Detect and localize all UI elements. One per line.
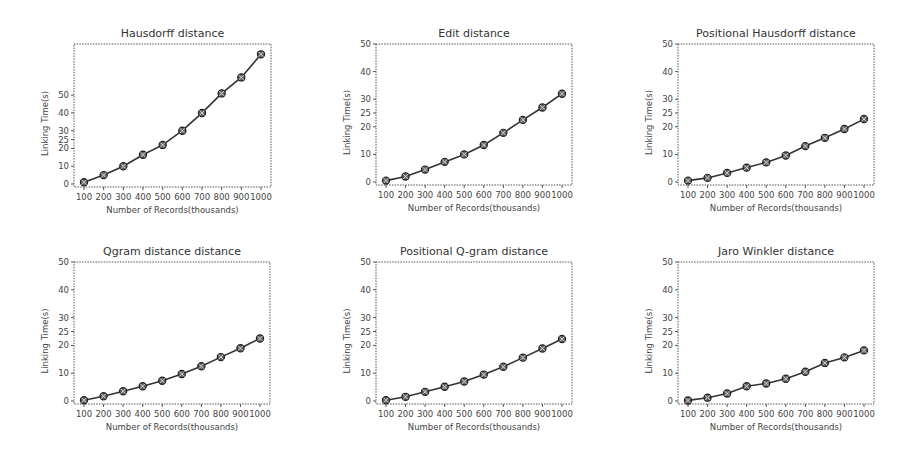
data-point-marker <box>782 375 789 382</box>
y-tick-label: 0 <box>668 396 673 406</box>
y-axis-label: Linking Time(s) <box>644 308 654 373</box>
x-tick-label: 300 <box>719 409 735 419</box>
data-point-marker <box>684 397 691 404</box>
y-tick-label: 50 <box>662 257 673 267</box>
plot-frame <box>678 262 874 404</box>
x-axis-label: Number of Records(thousands) <box>710 422 842 432</box>
x-tick-label: 900 <box>836 409 852 419</box>
data-point-marker <box>724 390 731 397</box>
data-point-marker <box>704 394 711 401</box>
data-point-marker <box>821 359 828 366</box>
data-point-marker <box>860 347 867 354</box>
x-tick-label: 700 <box>797 409 813 419</box>
x-tick-label: 200 <box>699 409 715 419</box>
y-tick-label: 10 <box>662 368 673 378</box>
data-point-marker <box>763 380 770 387</box>
series-line <box>688 350 864 400</box>
y-tick-label: 25 <box>662 327 673 337</box>
x-tick-label: 400 <box>739 409 755 419</box>
chart-title: Jaro Winkler distance <box>717 245 834 258</box>
x-tick-label: 500 <box>758 409 774 419</box>
x-tick-label: 1000 <box>853 409 875 419</box>
x-tick-label: 100 <box>680 409 696 419</box>
x-tick-label: 800 <box>817 409 833 419</box>
y-tick-label: 40 <box>662 285 673 295</box>
x-tick-label: 600 <box>778 409 794 419</box>
data-point-marker <box>841 354 848 361</box>
data-point-marker <box>743 383 750 390</box>
data-point-marker <box>802 368 809 375</box>
y-tick-label: 20 <box>662 340 673 350</box>
y-tick-label: 30 <box>662 313 673 323</box>
chart-svg: Jaro Winkler distance0102025304050100200… <box>0 0 913 463</box>
